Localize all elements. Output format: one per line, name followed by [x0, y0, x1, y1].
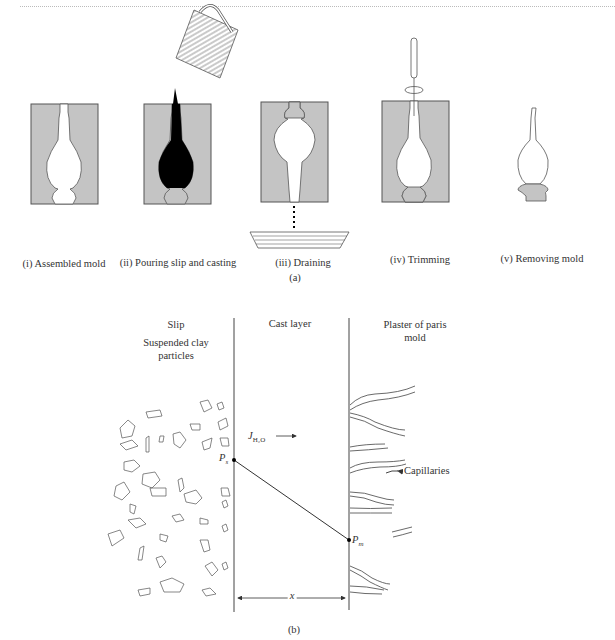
step-label-removing-mold: (v) Removing mold	[501, 253, 584, 264]
mold-draining	[250, 102, 349, 248]
panel-b-caption: (b)	[288, 624, 300, 635]
particles-label: Suspended clay particles	[136, 336, 216, 362]
mold-pressure-label: Pm	[352, 534, 363, 548]
step-label-draining: (iii) Draining	[275, 257, 331, 268]
pressure-gradient-line	[232, 458, 351, 542]
panel-a-caption: (a)	[289, 272, 301, 283]
pitcher-icon	[176, 5, 238, 78]
capillaries-label: Capillaries	[404, 465, 450, 476]
mold-assembled	[31, 104, 98, 204]
mold-label: Plaster of paris mold	[375, 318, 455, 344]
capillaries	[350, 386, 415, 594]
step-label-trimming: (iv) Trimming	[390, 254, 450, 265]
mold-pouring	[144, 5, 238, 204]
slip-label: Slip	[168, 319, 185, 330]
slip-pressure-label: Ps	[219, 452, 228, 466]
step-label-pouring: (ii) Pouring slip and casting	[120, 257, 237, 268]
clay-particles	[108, 400, 230, 596]
cast-part	[518, 108, 548, 201]
drain-tray-icon	[250, 232, 349, 248]
water-flux-label: JH₂O	[248, 430, 265, 444]
thickness-label: x	[288, 590, 297, 601]
step-label-assembled-mold: (i) Assembled mold	[23, 258, 106, 269]
cast-layer-label: Cast layer	[269, 318, 311, 329]
cast-layer-boundaries	[234, 318, 349, 612]
mold-trimming	[382, 38, 449, 202]
